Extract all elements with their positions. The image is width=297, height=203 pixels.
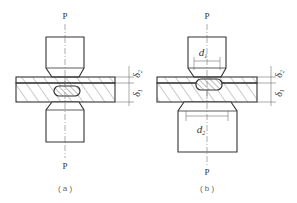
thickness-dimension-a [115, 66, 134, 106]
delta2-label-a: δ2 [131, 70, 143, 78]
force-top-label-a: P [62, 11, 67, 21]
caption-b: ( b ) [200, 184, 215, 193]
panel-b: P P d1 d2 [157, 11, 285, 193]
delta1-label-a: δ1 [131, 89, 143, 97]
force-bottom-label-b: P [204, 167, 209, 177]
panel-a: P P δ2 δ1 ( a ) [16, 11, 143, 193]
sheet-top-a [16, 77, 115, 83]
force-top-label-b: P [204, 11, 209, 21]
delta1-label-b: δ1 [273, 89, 285, 97]
delta2-label-b: δ2 [273, 70, 285, 78]
spot-welding-diagram: P P δ2 δ1 ( a ) P P [0, 0, 297, 203]
force-bottom-label-a: P [62, 161, 67, 171]
lower-electrode-b [178, 102, 237, 152]
thickness-dimension-b [257, 66, 276, 106]
caption-a: ( a ) [58, 184, 73, 193]
